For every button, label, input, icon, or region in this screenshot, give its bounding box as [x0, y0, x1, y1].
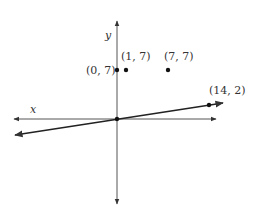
point-1-7-label: (1, 7) [121, 50, 151, 63]
point-14-2-label: (14, 2) [209, 84, 246, 97]
x-axis-label: x [30, 103, 37, 116]
point-14-2 [207, 103, 211, 107]
y-axis-label: y [104, 29, 112, 42]
coordinate-plane: y x (0, 7) (1, 7) (7, 7) (14, 2) [0, 0, 253, 221]
point-0-7-label: (0, 7) [86, 64, 116, 77]
origin-point [115, 117, 119, 121]
point-1-7 [124, 68, 128, 72]
point-7-7 [166, 68, 170, 72]
point-7-7-label: (7, 7) [164, 50, 194, 63]
